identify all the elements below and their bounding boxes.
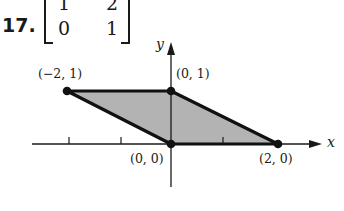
vertex-neg2-1 (63, 87, 72, 96)
coordinate-plot (0, 0, 344, 211)
point-label-2-0: (2, 0) (259, 151, 293, 166)
x-axis-arrow-icon (309, 140, 322, 148)
x-axis-label: x (327, 134, 335, 150)
vertex-0-1 (167, 87, 176, 96)
y-axis-label: y (156, 36, 164, 52)
point-label-0-0: (0, 0) (130, 151, 164, 166)
vertex-2-0 (274, 140, 283, 149)
y-axis-arrow-icon (167, 42, 175, 55)
vertex-0-0 (167, 140, 176, 149)
parallelogram (67, 91, 278, 144)
point-label-neg2-1: (−2, 1) (38, 66, 82, 81)
point-label-0-1: (0, 1) (176, 66, 210, 81)
